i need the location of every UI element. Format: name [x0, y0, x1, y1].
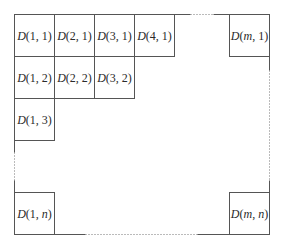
- cells-layer: D(1, 1)D(2, 1)D(3, 1)D(4, 1)D(m, 1)D(1, …: [15, 15, 270, 235]
- cell-label: D(1, 2): [16, 71, 52, 85]
- cell-d1n: D(1, n): [15, 193, 55, 235]
- outer-boundary: [15, 15, 270, 235]
- cell-dm1: D(m, 1): [230, 15, 270, 57]
- cell-d12: D(1, 2): [15, 57, 55, 99]
- cell-label: D(2, 1): [56, 29, 92, 43]
- cell-dmn: D(m, n): [230, 193, 270, 235]
- cell-label: D(m, 1): [230, 29, 268, 43]
- cell-d32: D(3, 2): [95, 57, 135, 99]
- cell-d31: D(3, 1): [95, 15, 135, 57]
- cell-label: D(3, 2): [96, 71, 132, 85]
- cell-d22: D(2, 2): [55, 57, 95, 99]
- cell-label: D(3, 1): [96, 29, 132, 43]
- cell-label: D(2, 2): [56, 71, 92, 85]
- cell-label: D(m, n): [230, 207, 268, 221]
- cell-d13: D(1, 3): [15, 99, 55, 141]
- cell-d21: D(2, 1): [55, 15, 95, 57]
- cell-label: D(1, n): [16, 207, 52, 221]
- dp-grid-diagram: D(1, 1)D(2, 1)D(3, 1)D(4, 1)D(m, 1)D(1, …: [0, 0, 281, 243]
- cell-label: D(1, 3): [16, 113, 52, 127]
- cell-label: D(4, 1): [136, 29, 172, 43]
- cell-d41: D(4, 1): [135, 15, 175, 57]
- cell-label: D(1, 1): [16, 29, 52, 43]
- cell-d11: D(1, 1): [15, 15, 55, 57]
